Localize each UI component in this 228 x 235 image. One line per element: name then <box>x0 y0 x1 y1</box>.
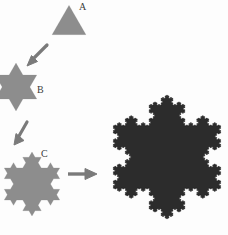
stage-c-snowflake <box>0 152 65 216</box>
stage-d-final-snowflake <box>104 95 228 219</box>
stage-label-c: C <box>41 149 48 159</box>
stage-label-b: B <box>37 85 44 95</box>
koch-iteration-2-svg <box>0 152 65 216</box>
stage-label-a: A <box>79 2 86 12</box>
koch-iteration-1-svg <box>0 63 41 111</box>
arrow-a-to-b-icon <box>25 42 51 68</box>
koch-path-1 <box>0 63 37 111</box>
stage-b-star <box>0 63 41 111</box>
koch-path-2 <box>4 152 59 216</box>
koch-iteration-6-svg <box>104 95 228 219</box>
arrow-c-to-final-icon <box>67 166 98 182</box>
arrow-b-to-c-icon <box>10 119 34 147</box>
figure-canvas: A B C <box>0 0 228 235</box>
koch-path-6 <box>113 95 220 219</box>
